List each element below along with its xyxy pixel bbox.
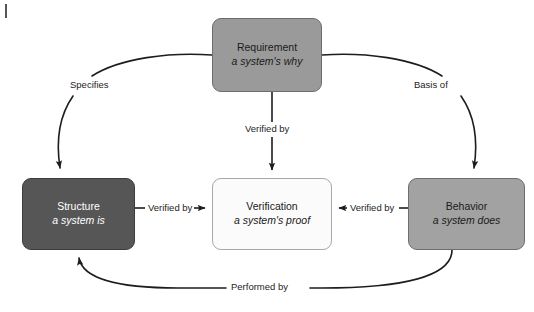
edge-label-requirement-verified-by: Verified by [243, 124, 291, 134]
node-structure-subtitle: a system is [52, 214, 105, 228]
edge-basis-of-path-b [461, 96, 476, 168]
node-verification[interactable]: Verification a system's proof [212, 178, 332, 250]
node-verification-subtitle: a system's proof [234, 214, 310, 228]
node-verification-title: Verification [246, 200, 297, 214]
edge-label-structure-verified-by: Verified by [146, 203, 194, 213]
node-requirement-title: Requirement [237, 41, 297, 55]
edge-specifies-path-a [92, 54, 212, 76]
node-behavior-subtitle: a system does [433, 214, 501, 228]
node-requirement[interactable]: Requirement a system's why [212, 18, 322, 92]
edge-label-basis-of: Basis of [412, 80, 450, 90]
edge-specifies-path-b [58, 96, 73, 168]
node-behavior[interactable]: Behavior a system does [408, 178, 525, 250]
diagram-canvas: Requirement a system's why Structure a s… [0, 0, 534, 312]
node-structure-title: Structure [57, 200, 100, 214]
edge-label-specifies: Specifies [68, 80, 111, 90]
edge-basis-of-path-a [322, 54, 442, 76]
scan-artifact-mark [5, 4, 7, 18]
node-requirement-subtitle: a system's why [232, 55, 303, 69]
edge-performed-by-path-b [79, 258, 226, 288]
node-behavior-title: Behavior [446, 200, 487, 214]
node-structure[interactable]: Structure a system is [22, 178, 135, 250]
edge-performed-by-path-a [310, 250, 452, 288]
edge-label-performed-by: Performed by [229, 282, 290, 292]
edge-label-behavior-verified-by: Verified by [348, 203, 396, 213]
